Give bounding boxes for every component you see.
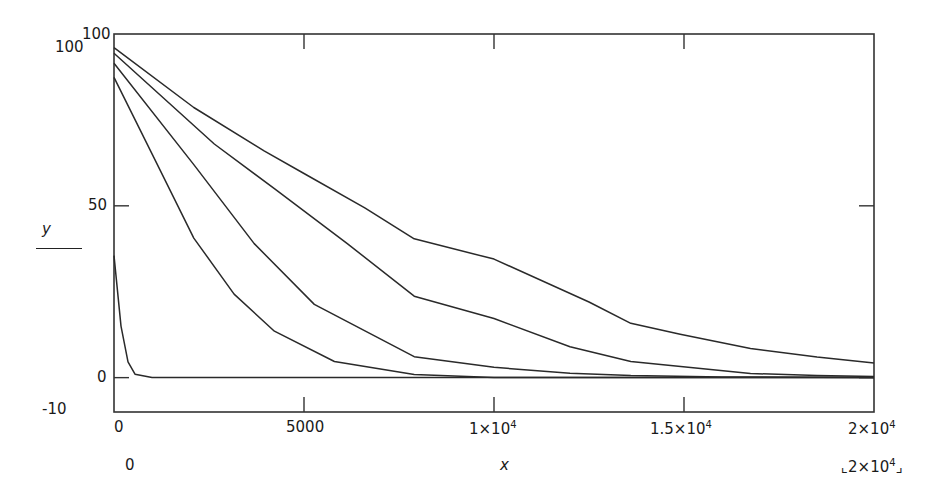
- x-tick-label-5000: 5000: [286, 420, 324, 435]
- x-tick-20000-exponent: 4: [889, 419, 895, 430]
- x-range-upper-mantissa: ⌞2×10: [841, 458, 889, 476]
- x-tick-10000-exponent: 4: [510, 419, 516, 430]
- y-tick-label-100: 100: [82, 27, 111, 42]
- y-range-lower-label[interactable]: -10: [42, 402, 67, 417]
- y-range-upper-label[interactable]: 100: [55, 40, 84, 55]
- y-tick-label-50: 50: [88, 198, 107, 213]
- y-tick-label-0: 0: [97, 370, 107, 385]
- x-tick-label-20000: 2×104: [848, 420, 896, 437]
- x-tick-10000-mantissa: 1×10: [469, 420, 510, 438]
- plot-area[interactable]: [0, 0, 936, 501]
- series-line-curve-3: [114, 63, 874, 377]
- y-axis-label-underline: [36, 248, 82, 249]
- y-axis-label[interactable]: y: [42, 222, 51, 237]
- x-axis-label[interactable]: x: [500, 458, 509, 473]
- x-tick-15000-exponent: 4: [706, 419, 712, 430]
- series-line-curve-1: [114, 48, 874, 363]
- x-tick-15000-mantissa: 1.5×10: [650, 420, 706, 438]
- series-line-curve-4: [114, 77, 874, 377]
- x-range-upper-label[interactable]: ⌞2×104⌟: [841, 458, 903, 475]
- series-line-curve-2: [114, 53, 874, 376]
- x-tick-20000-mantissa: 2×10: [848, 420, 889, 438]
- x-range-lower-label[interactable]: 0: [125, 458, 135, 473]
- data-series: [114, 48, 874, 378]
- x-tick-label-10000: 1×104: [469, 420, 517, 437]
- plot-frame: [114, 34, 874, 412]
- series-line-curve-5: [114, 256, 874, 378]
- axis-ticks: [114, 34, 874, 412]
- x-range-upper-bracket: ⌟: [896, 458, 903, 476]
- x-tick-label-15000: 1.5×104: [650, 420, 712, 437]
- x-tick-label-0: 0: [114, 420, 124, 435]
